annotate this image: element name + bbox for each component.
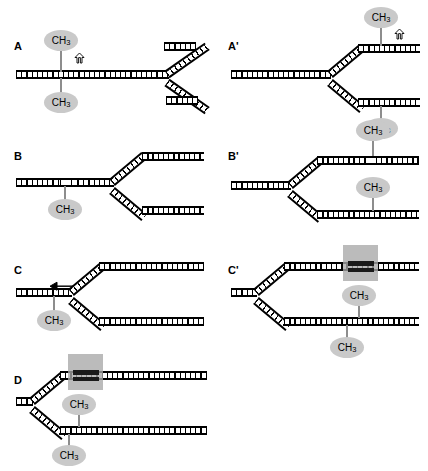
methyl-subscript: 3: [378, 128, 382, 137]
methyl-label: CH: [52, 97, 66, 108]
up-arrow-icon: [74, 52, 85, 64]
dna-daughter-lower: [358, 98, 420, 107]
methyl-label: CH: [372, 12, 386, 23]
bound-protein-block: [348, 261, 374, 266]
methyl-label: CH: [338, 342, 352, 353]
dna-daughter-lower: [60, 426, 207, 435]
methyl-group-bottom: CH3: [330, 337, 364, 358]
methyl-group-middle: CH3: [342, 285, 376, 306]
methyl-subscript: 3: [59, 318, 63, 327]
methyl-subscript: 3: [66, 100, 70, 109]
dna-hemimethylated-segment: [365, 156, 381, 165]
dna-fork-lower-arm: [327, 79, 365, 113]
dna-daughter-lower: [284, 317, 419, 326]
methyl-group-top: CH3: [44, 30, 78, 51]
dna-fork-lower-tip: [166, 96, 198, 105]
dna-fork-lower-arm: [109, 187, 147, 221]
methyl-subscript: 3: [66, 38, 70, 47]
panel-label-D: D: [14, 374, 22, 386]
dna-hemimethylated-segment: [60, 178, 78, 187]
methyl-label: CH: [350, 290, 364, 301]
dna-parent-strand: [231, 181, 291, 190]
dna-daughter-lower: [317, 210, 419, 219]
methyl-stem: [380, 26, 382, 46]
dna-daughter-upper-left: [317, 156, 365, 165]
up-arrow-icon: [394, 28, 405, 40]
methyl-label: CH: [70, 399, 84, 410]
methyl-label: CH: [45, 315, 59, 326]
methyl-subscript: 3: [74, 453, 78, 462]
methyl-group-top: CH3: [356, 120, 390, 141]
left-arrow-icon: [49, 281, 75, 291]
methyl-label: CH: [364, 182, 378, 193]
methyl-group-top: CH3: [364, 7, 398, 28]
methyl-label: CH: [364, 125, 378, 136]
dna-daughter-lower: [142, 206, 204, 215]
bound-protein-block: [348, 268, 374, 272]
bound-protein-block: [73, 377, 99, 381]
dna-daughter-upper-right: [381, 156, 419, 165]
methyl-label: CH: [60, 450, 74, 461]
dna-fork-upper-tip: [164, 42, 196, 51]
panel-label-A-prime: A': [228, 40, 239, 52]
methyl-subscript: 3: [84, 402, 88, 411]
panel-label-C-prime: C': [228, 264, 239, 276]
methyl-subscript: 3: [352, 345, 356, 354]
methyl-group-bottom: CH3: [37, 310, 71, 331]
dna-parent-strand: [16, 70, 169, 79]
methyl-group-bottom: CH3: [48, 199, 82, 220]
bound-protein-block: [73, 370, 99, 375]
dna-parent-strand: [231, 70, 331, 79]
methyl-group-middle: CH3: [62, 394, 96, 415]
dna-daughter-upper: [142, 152, 204, 161]
methyl-stem: [60, 50, 62, 72]
dna-parent-strand-left: [16, 178, 60, 187]
methyl-stem: [372, 196, 374, 211]
methyl-subscript: 3: [386, 15, 390, 24]
methyl-group-bottom: CH3: [44, 92, 78, 113]
methyl-label: CH: [56, 204, 70, 215]
panel-label-B-prime: B': [228, 150, 239, 162]
methyl-subscript: 3: [378, 185, 382, 194]
methyl-group-middle: CH3: [356, 177, 390, 198]
methyl-label: CH: [52, 35, 66, 46]
dna-daughter-upper: [99, 262, 204, 271]
panel-label-C: C: [14, 264, 22, 276]
dna-daughter-lower: [99, 317, 204, 326]
panel-label-B: B: [14, 150, 22, 162]
dna-daughter-upper: [358, 44, 420, 53]
methyl-subscript: 3: [364, 293, 368, 302]
methyl-group-bottom: CH3: [52, 445, 86, 466]
methyl-subscript: 3: [70, 207, 74, 216]
panel-label-A: A: [14, 40, 22, 52]
